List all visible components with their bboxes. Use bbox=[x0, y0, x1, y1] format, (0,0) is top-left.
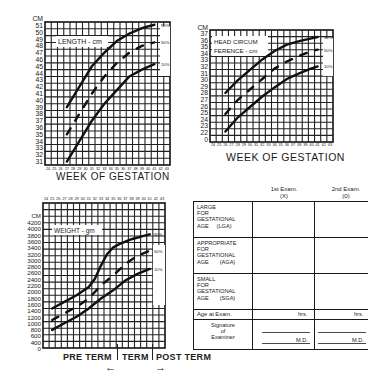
lga-second-exam-cell[interactable] bbox=[315, 202, 368, 237]
aga-second-exam-cell[interactable] bbox=[315, 238, 368, 273]
first-exam-md[interactable]: M.D. bbox=[296, 337, 308, 343]
signature-label: Signature of Examiner bbox=[194, 322, 252, 341]
aga-first-exam-cell[interactable] bbox=[253, 238, 314, 273]
lga-label: LARGE FOR GESTATIONAL AGE (LGA) bbox=[197, 204, 235, 229]
age-first-exam-hrs[interactable]: hrs. bbox=[298, 311, 307, 317]
age-second-exam-hrs[interactable]: hrs. bbox=[354, 311, 363, 317]
lga-first-exam-cell[interactable] bbox=[253, 202, 314, 237]
aga-label: APPROPRIATE FOR GESTATIONAL AGE (AGA) bbox=[197, 240, 236, 265]
second-exam-md[interactable]: M.D. bbox=[352, 337, 364, 343]
age-at-exam-label: Age at Exam. bbox=[197, 311, 232, 317]
sga-label: SMALL FOR GESTATIONAL AGE (SGA) bbox=[197, 276, 235, 301]
sga-second-exam-cell[interactable] bbox=[315, 274, 368, 309]
sga-first-exam-cell[interactable] bbox=[253, 274, 314, 309]
